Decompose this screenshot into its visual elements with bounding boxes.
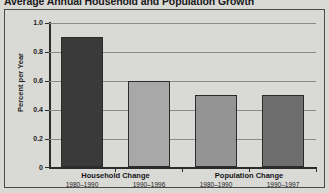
chart-panel: 1.0 0.8 0.6 0.4 0.2 0 Percent per Year — [4, 9, 325, 188]
range-label-household-2: 1990–1996 — [116, 181, 182, 188]
page-title: Average Annual Household and Population … — [4, 0, 325, 7]
bar-household-1980-1990[interactable] — [61, 37, 103, 167]
bar-population-1990-1997[interactable] — [262, 95, 304, 167]
range-label-population-2: 1990–1997 — [250, 181, 316, 188]
group-label-population: Population Change — [182, 171, 316, 180]
bar-population-1980-1990[interactable] — [195, 95, 237, 167]
y-axis-title: Percent per Year — [16, 48, 25, 118]
x-tick-mark — [316, 169, 317, 172]
chart-screenshot: Average Annual Household and Population … — [0, 0, 329, 193]
bar-household-1990-1996[interactable] — [128, 81, 170, 167]
x-axis-line — [49, 167, 317, 169]
plot-area — [49, 23, 316, 167]
y-tick-label: 1.0 — [21, 19, 43, 26]
group-label-household: Household Change — [49, 171, 182, 180]
y-tick-label: 0.2 — [21, 135, 43, 142]
gridline — [49, 23, 316, 24]
range-label-population-1: 1980–1990 — [183, 181, 249, 188]
range-label-household-1: 1980–1990 — [49, 181, 115, 188]
y-tick-label: 0 — [21, 164, 43, 171]
